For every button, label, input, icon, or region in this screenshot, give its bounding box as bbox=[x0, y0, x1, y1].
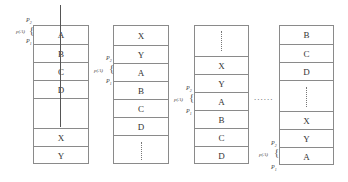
cell-c: C bbox=[34, 62, 88, 81]
cell-label: D bbox=[138, 122, 145, 132]
cell-d: D bbox=[280, 62, 333, 81]
cell-b: B bbox=[280, 26, 333, 44]
cell-x: X bbox=[34, 128, 88, 147]
pa-label: p(A) bbox=[16, 29, 25, 34]
brace-icon: { bbox=[189, 92, 194, 103]
p1-label: P1 bbox=[106, 78, 112, 86]
cell-ellipsis bbox=[280, 80, 333, 112]
cell-label: X bbox=[218, 61, 225, 71]
cell-b: B bbox=[34, 44, 88, 63]
vertical-dots-icon bbox=[306, 87, 307, 107]
cell-d: D bbox=[195, 146, 248, 165]
cell-y: Y bbox=[114, 45, 168, 64]
cell-label: X bbox=[58, 133, 65, 143]
cell-empty bbox=[34, 98, 88, 129]
cell-label: A bbox=[58, 30, 65, 40]
stack-2: X Y A B C D bbox=[113, 25, 169, 164]
cell-y: Y bbox=[280, 129, 333, 148]
cell-x: X bbox=[195, 56, 248, 75]
cell-c: C bbox=[114, 99, 168, 118]
cell-a: A bbox=[114, 63, 168, 82]
cell-a: A bbox=[195, 92, 248, 111]
cell-label: A bbox=[218, 97, 225, 107]
cell-y: Y bbox=[195, 74, 248, 93]
cell-label: B bbox=[303, 30, 309, 40]
cell-label: C bbox=[218, 133, 224, 143]
cell-ellipsis bbox=[195, 26, 248, 56]
stack-4: B C D X Y A bbox=[279, 25, 334, 165]
cell-label: X bbox=[303, 116, 310, 126]
cell-label: B bbox=[138, 86, 144, 96]
cell-label: Y bbox=[58, 151, 65, 161]
vertical-dots-icon bbox=[141, 142, 142, 160]
cell-y: Y bbox=[34, 146, 88, 165]
cell-label: A bbox=[138, 68, 145, 78]
cell-label: C bbox=[303, 49, 309, 59]
cell-label: A bbox=[303, 152, 310, 162]
pa-label: p(A) bbox=[259, 152, 268, 157]
cell-c: C bbox=[195, 128, 248, 147]
cell-x: X bbox=[280, 111, 333, 130]
cell-ellipsis bbox=[114, 135, 168, 165]
vertical-line bbox=[60, 5, 61, 127]
cell-label: D bbox=[218, 151, 225, 161]
cell-label: Y bbox=[138, 50, 145, 60]
cell-a: A bbox=[280, 147, 333, 166]
p1-label: P1 bbox=[271, 164, 277, 172]
cell-b: B bbox=[114, 81, 168, 100]
vertical-dots-icon bbox=[221, 31, 222, 51]
p1-label: P1 bbox=[26, 38, 32, 46]
cell-b: B bbox=[195, 110, 248, 129]
pa-label: p(A) bbox=[94, 68, 103, 73]
cell-x: X bbox=[114, 26, 168, 45]
cell-label: B bbox=[218, 115, 224, 125]
brace-icon: { bbox=[29, 25, 34, 36]
pa-label: p(A) bbox=[174, 97, 183, 102]
stack-1: A B C D X Y bbox=[33, 25, 89, 164]
ellipsis: ...... bbox=[254, 92, 274, 102]
cell-d: D bbox=[114, 117, 168, 136]
stack-3: X Y A B C D bbox=[194, 25, 249, 164]
cell-label: D bbox=[58, 85, 65, 95]
cell-d: D bbox=[34, 80, 88, 99]
cell-label: D bbox=[303, 67, 310, 77]
cell-label: C bbox=[138, 104, 144, 114]
cell-label: X bbox=[138, 31, 145, 41]
brace-icon: { bbox=[274, 147, 279, 158]
cell-c: C bbox=[280, 44, 333, 63]
cell-a: A bbox=[34, 26, 88, 44]
cell-label: Y bbox=[303, 134, 310, 144]
brace-icon: { bbox=[109, 63, 114, 74]
cell-label: Y bbox=[218, 79, 225, 89]
p1-label: P1 bbox=[186, 108, 192, 116]
